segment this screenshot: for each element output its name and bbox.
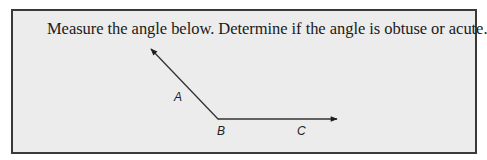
ray-ba [151, 49, 218, 119]
label-c: C [297, 124, 306, 138]
vertex-b [217, 118, 218, 119]
label-b: B [217, 124, 225, 138]
label-a: A [173, 90, 182, 104]
